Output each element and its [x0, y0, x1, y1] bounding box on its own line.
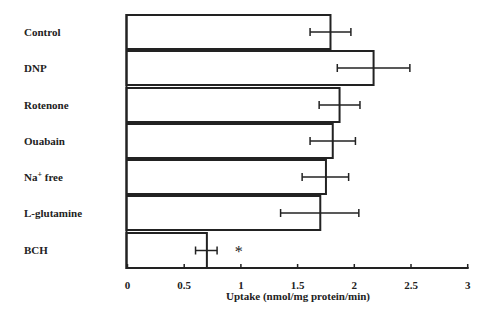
bar-na-free — [127, 160, 326, 194]
category-labels-group: ControlDNPRotenoneOuabainNa+ freeL-gluta… — [24, 26, 82, 256]
category-label: L-glutamine — [24, 207, 82, 219]
bar-rotenone — [127, 88, 340, 122]
uptake-bar-chart: ControlDNPRotenoneOuabainNa+ freeL-gluta… — [0, 0, 489, 317]
x-axis-title: Uptake (nmol/mg protein/min) — [226, 290, 370, 303]
category-label: DNP — [24, 62, 47, 74]
bar-ouabain — [127, 124, 333, 158]
x-tick-label: 0.5 — [177, 279, 191, 291]
category-label: BCH — [24, 244, 48, 256]
annotations-group: * — [235, 243, 243, 260]
significance-asterisk: * — [235, 243, 243, 260]
bar-dnp — [127, 51, 374, 85]
x-tick-label: 3 — [465, 279, 471, 291]
category-label: Na+ free — [24, 170, 63, 183]
category-label: Control — [24, 26, 60, 38]
x-tick-label: 0 — [125, 279, 131, 291]
category-label: Ouabain — [24, 135, 65, 147]
category-label: Rotenone — [24, 99, 69, 111]
x-tick-label: 2.5 — [404, 279, 418, 291]
bar-control — [127, 15, 331, 49]
